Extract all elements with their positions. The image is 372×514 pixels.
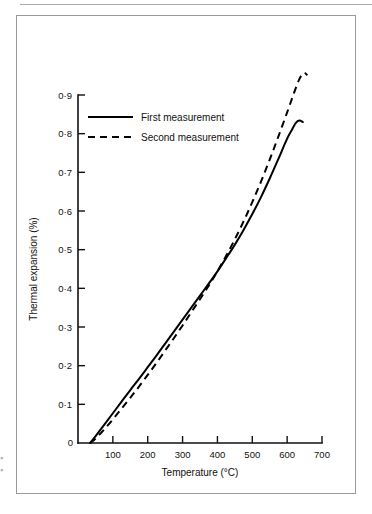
chart-legend: First measurement Second measurement xyxy=(88,112,239,143)
chart-plot-area: 0100200300400500600700 0·10·20·30·40·50·… xyxy=(0,0,372,514)
x-axis-tick-label: 400 xyxy=(209,449,225,460)
x-axis-tick-label: 300 xyxy=(175,449,191,460)
x-axis-tick-label: 0 xyxy=(68,437,73,448)
x-axis-tick-label: 600 xyxy=(279,449,295,460)
series-second-measurement xyxy=(90,73,307,443)
x-axis-tick-label: 500 xyxy=(244,449,260,460)
y-axis-tick-label: 0·4 xyxy=(58,283,72,294)
legend-label-second-measurement: Second measurement xyxy=(141,132,239,143)
x-axis-tick-label: 700 xyxy=(314,449,330,460)
y-axis-tick-label: 0·1 xyxy=(58,399,72,410)
series-first-measurement xyxy=(90,121,303,443)
y-axis-tick-label: 0·6 xyxy=(58,206,72,217)
legend-label-first-measurement: First measurement xyxy=(141,112,225,123)
y-axis-tick-label: 0·5 xyxy=(58,244,72,255)
y-axis-tick-label: 0·2 xyxy=(58,360,72,371)
x-axis-title: Temperature (°C) xyxy=(162,467,239,478)
x-axis-tick-label: 200 xyxy=(140,449,156,460)
x-axis-tick-label: 100 xyxy=(105,449,121,460)
figure-page: ▪ ▪ 0100200300400500600700 0·10·20·30·40… xyxy=(0,0,372,514)
x-axis-ticks: 0100200300400500600700 xyxy=(68,436,330,460)
y-axis-tick-label: 0·3 xyxy=(58,322,72,333)
thermal-expansion-line-chart: 0100200300400500600700 0·10·20·30·40·50·… xyxy=(0,0,372,514)
y-axis-tick-label: 0·7 xyxy=(58,167,72,178)
y-axis-ticks: 0·10·20·30·40·50·60·70·80·9 xyxy=(58,90,85,410)
y-axis-title: Thermal expansion (%) xyxy=(28,217,39,320)
y-axis-tick-label: 0·9 xyxy=(58,90,72,101)
y-axis-tick-label: 0·8 xyxy=(58,128,72,139)
